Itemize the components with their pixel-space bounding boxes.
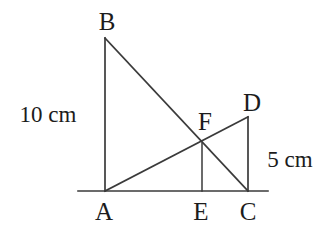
geometry-figure: B D F A E C 10 cm 5 cm [0, 0, 327, 238]
vertex-label-f: F [198, 109, 212, 134]
measure-label-right-height: 5 cm [267, 148, 312, 171]
measure-label-left-height: 10 cm [20, 103, 77, 126]
segment-ad [105, 117, 248, 191]
vertex-label-b: B [99, 9, 116, 34]
vertex-label-c: C [240, 199, 257, 224]
vertex-label-d: D [243, 90, 261, 115]
segment-bc [105, 38, 248, 191]
vertex-label-a: A [95, 199, 113, 224]
vertex-label-e: E [193, 199, 208, 224]
